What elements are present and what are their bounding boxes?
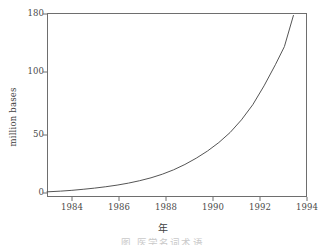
y-axis-title-text: million bases — [8, 87, 18, 146]
x-tick-label-1988: 1988 — [155, 202, 177, 212]
figure-container: 180 100 50 0 1984 1986 1988 1990 1992 19… — [0, 0, 325, 245]
x-axis-title: 年 — [0, 220, 325, 235]
y-tick-label-180: 180 — [27, 9, 44, 18]
x-axis-title-text: 年 — [158, 223, 168, 234]
x-tick-label-1984: 1984 — [61, 202, 83, 212]
y-tick-label-100: 100 — [27, 67, 44, 76]
figure-caption-text: 图 医学名词术语 — [0, 237, 325, 245]
plot-frame — [47, 13, 307, 197]
x-axis-tick-labels: 1984 1986 1988 1990 1992 1994 — [0, 202, 325, 216]
x-tick-marks — [72, 197, 307, 201]
x-tick-label-1990: 1990 — [202, 202, 224, 212]
x-tick-label-1992: 1992 — [249, 202, 271, 212]
y-tick-label-50: 50 — [33, 130, 44, 139]
y-tick-label-0: 0 — [38, 188, 44, 197]
x-tick-label-1986: 1986 — [108, 202, 130, 212]
y-axis-title: million bases — [5, 62, 21, 172]
x-tick-label-1994: 1994 — [296, 202, 318, 212]
figure-caption: 图 医学名词术语 — [0, 237, 325, 245]
